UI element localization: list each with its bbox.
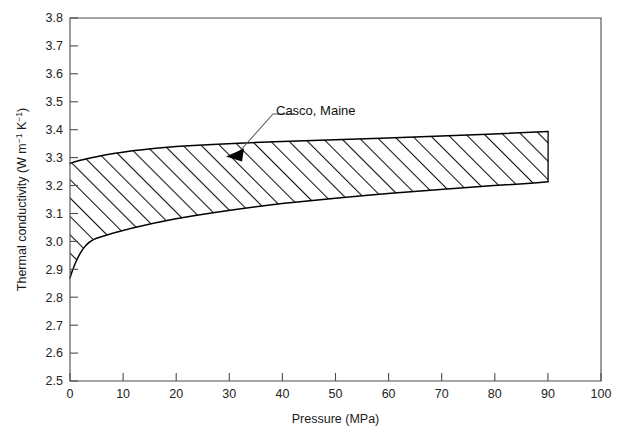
x-tick-label: 50: [329, 387, 343, 401]
y-axis-title-close: ): [15, 108, 29, 112]
thermal-conductivity-pressure-chart: 2.5 2.6 2.7 2.8 2.9 3.0 3.1 3.2 3.3 3.4 …: [0, 0, 621, 434]
x-tick-label: 0: [67, 387, 74, 401]
y-axis-title-exponent-1: −1: [14, 133, 24, 143]
y-tick-label: 3.4: [46, 123, 63, 137]
y-axis-title-mid: K: [15, 121, 29, 133]
y-axis-title-main: Thermal conductivity (W m: [15, 143, 29, 291]
x-tick-label: 80: [488, 387, 502, 401]
y-axis-title: Thermal conductivity (W m−1 K−1): [14, 108, 29, 291]
y-tick-label: 2.8: [46, 291, 63, 305]
y-tick-label: 3.0: [46, 235, 63, 249]
x-axis-title: Pressure (MPa): [292, 412, 380, 426]
y-tick-label: 2.9: [46, 263, 63, 277]
y-tick-label: 2.6: [46, 346, 63, 360]
y-axis-tick-labels: 2.5 2.6 2.7 2.8 2.9 3.0 3.1 3.2 3.3 3.4 …: [46, 11, 63, 388]
x-axis-tick-labels: 0 10 20 30 40 50 60 70 80 90 100: [67, 387, 612, 401]
y-axis-title-exponent-2: −1: [14, 112, 24, 122]
y-tick-label: 2.7: [46, 319, 63, 333]
y-tick-label: 3.6: [46, 67, 63, 81]
x-tick-label: 20: [169, 387, 183, 401]
y-tick-label: 3.2: [46, 179, 63, 193]
x-tick-label: 10: [116, 387, 130, 401]
annotation-label-casco-maine: Casco, Maine: [276, 103, 355, 118]
x-tick-label: 100: [591, 387, 612, 401]
y-tick-label: 3.7: [46, 39, 63, 53]
x-tick-label: 90: [541, 387, 555, 401]
y-tick-label: 2.5: [46, 374, 63, 388]
x-tick-label: 30: [222, 387, 236, 401]
x-tick-label: 40: [275, 387, 289, 401]
y-tick-label: 3.1: [46, 207, 63, 221]
svg-text:Thermal conductivity (W m−1 K−: Thermal conductivity (W m−1 K−1): [14, 108, 29, 291]
y-tick-label: 3.3: [46, 151, 63, 165]
y-tick-label: 3.5: [46, 95, 63, 109]
x-tick-label: 60: [382, 387, 396, 401]
x-tick-label: 70: [435, 387, 449, 401]
chart-figure: 2.5 2.6 2.7 2.8 2.9 3.0 3.1 3.2 3.3 3.4 …: [0, 0, 621, 434]
y-tick-label: 3.8: [46, 11, 63, 25]
